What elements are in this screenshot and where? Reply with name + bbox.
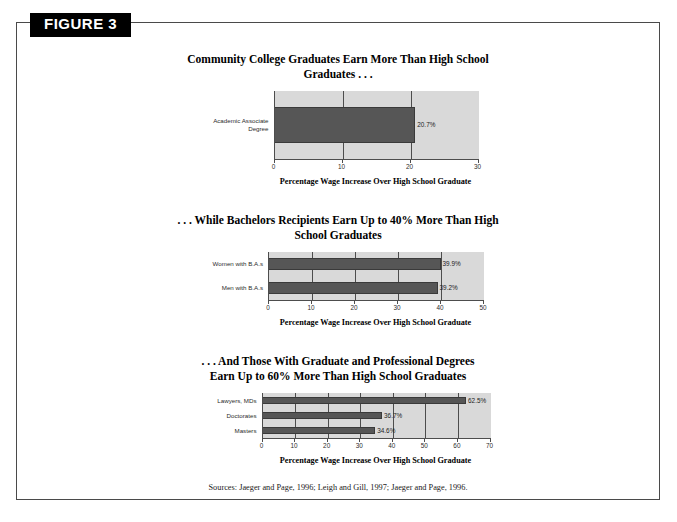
bar-value-label: 34.6% xyxy=(377,427,395,434)
category-label: Women with B.A.s xyxy=(192,260,263,268)
chart-2: Women with B.A.sMen with B.A.s 39.9%39.2… xyxy=(192,252,484,327)
x-tick-row-1: 0102030 xyxy=(274,160,478,173)
chart-title-3: . . . And Those With Graduate and Profes… xyxy=(188,354,488,384)
plot-column-2: 39.9%39.2% 01020304050 Percentage Wage I… xyxy=(268,252,484,327)
x-tick-label: 30 xyxy=(356,442,363,449)
chart-panel-3: . . . And Those With Graduate and Profes… xyxy=(30,354,646,465)
x-tick-label: 0 xyxy=(266,304,270,311)
chart-3: Lawyers, MDsDoctoratesMasters 62.5%36.7%… xyxy=(186,393,491,465)
plot-area-3: 62.5%36.7%34.6% xyxy=(262,393,491,439)
figure-number-tab: FIGURE 3 xyxy=(30,13,131,37)
chart-panel-1: Community College Graduates Earn More Th… xyxy=(30,52,646,186)
x-tick-label: 50 xyxy=(479,304,486,311)
category-axis-2: Women with B.A.sMen with B.A.s xyxy=(192,252,268,300)
bar-value-label: 20.7% xyxy=(417,121,435,128)
bar xyxy=(263,412,383,420)
category-label: Men with B.A.s xyxy=(192,284,263,292)
x-tick-label: 20 xyxy=(350,304,357,311)
plot-column-3: 62.5%36.7%34.6% 010203040506070 Percenta… xyxy=(262,393,491,465)
bar xyxy=(269,282,438,294)
bar-value-label: 39.9% xyxy=(443,260,461,267)
chart-title-2: . . . While Bachelors Recipients Earn Up… xyxy=(173,213,503,243)
x-tick-label: 40 xyxy=(436,304,443,311)
bar-row: 62.5% xyxy=(263,397,491,405)
chart-1: Academic Associate Degree 20.7% 0102030 … xyxy=(198,91,479,186)
bar-row: 36.7% xyxy=(263,412,491,420)
category-label: Masters xyxy=(186,427,257,435)
x-tick-label: 20 xyxy=(406,163,413,170)
bar-value-label: 62.5% xyxy=(468,397,486,404)
bar xyxy=(275,107,416,142)
chart-panel-2: . . . While Bachelors Recipients Earn Up… xyxy=(30,213,646,327)
chart-area-2: Women with B.A.sMen with B.A.s 39.9%39.2… xyxy=(30,252,646,327)
bar-row: 34.6% xyxy=(263,427,491,435)
bar xyxy=(263,397,467,405)
x-tick-label: 10 xyxy=(338,163,345,170)
x-tick-label: 70 xyxy=(486,442,493,449)
x-tick-label: 10 xyxy=(307,304,314,311)
x-tick-label: 60 xyxy=(453,442,460,449)
category-label: Lawyers, MDs xyxy=(186,397,257,405)
category-label: Doctorates xyxy=(186,412,257,420)
figure-content: Community College Graduates Earn More Th… xyxy=(16,22,660,500)
x-tick-label: 20 xyxy=(323,442,330,449)
category-label: Academic Associate Degree xyxy=(198,117,269,133)
x-tick-label: 30 xyxy=(393,304,400,311)
bar xyxy=(263,427,376,435)
x-tick-label: 40 xyxy=(388,442,395,449)
sources-note: Sources: Jaeger and Page, 1996; Leigh an… xyxy=(30,483,646,492)
bar-value-label: 36.7% xyxy=(384,412,402,419)
x-tick-label: 0 xyxy=(260,442,264,449)
x-axis-title-1: Percentage Wage Increase Over High Schoo… xyxy=(274,177,478,186)
bar xyxy=(269,258,441,270)
plot-area-1: 20.7% xyxy=(274,91,479,160)
bar-row: 20.7% xyxy=(275,107,479,142)
x-axis-title-3: Percentage Wage Increase Over High Schoo… xyxy=(262,456,490,465)
category-axis-1: Academic Associate Degree xyxy=(198,91,274,159)
x-axis-title-2: Percentage Wage Increase Over High Schoo… xyxy=(268,318,483,327)
plot-column-1: 20.7% 0102030 Percentage Wage Increase O… xyxy=(274,91,479,186)
x-tick-row-3: 010203040506070 xyxy=(262,439,490,452)
chart-area-3: Lawyers, MDsDoctoratesMasters 62.5%36.7%… xyxy=(30,393,646,465)
x-tick-label: 50 xyxy=(421,442,428,449)
x-tick-row-2: 01020304050 xyxy=(268,301,483,314)
bar-row: 39.2% xyxy=(269,282,484,294)
bar-value-label: 39.2% xyxy=(440,284,458,291)
x-tick-label: 0 xyxy=(272,163,276,170)
x-tick-label: 30 xyxy=(474,163,481,170)
plot-area-2: 39.9%39.2% xyxy=(268,252,484,301)
chart-area-1: Academic Associate Degree 20.7% 0102030 … xyxy=(30,91,646,186)
chart-title-1: Community College Graduates Earn More Th… xyxy=(173,52,503,82)
category-axis-3: Lawyers, MDsDoctoratesMasters xyxy=(186,393,262,438)
bar-row: 39.9% xyxy=(269,258,484,270)
x-tick-label: 10 xyxy=(291,442,298,449)
